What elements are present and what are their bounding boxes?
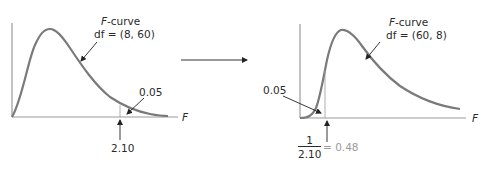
right-tail-pointer-arrow bbox=[283, 96, 321, 113]
left-critical-value: 2.10 bbox=[111, 142, 134, 154]
left-chart bbox=[12, 23, 178, 140]
left-curve-title: F-curve bbox=[101, 15, 140, 27]
left-curve-pointer-arrow bbox=[81, 42, 97, 61]
fraction-numerator: 1 bbox=[298, 134, 321, 146]
right-axis-label: F bbox=[472, 112, 478, 124]
right-reciprocal-result: = 0.48 bbox=[323, 141, 359, 153]
right-curve-pointer-arrow bbox=[366, 42, 380, 59]
left-f-curve bbox=[12, 29, 168, 117]
left-curve-title-rest: -curve bbox=[107, 15, 140, 27]
right-curve-title: F-curve bbox=[389, 16, 428, 28]
right-f-curve bbox=[300, 30, 460, 118]
left-tail-area-label: 0.05 bbox=[139, 86, 162, 98]
fraction-denominator: 2.10 bbox=[298, 146, 321, 160]
right-reciprocal-fraction: 1 2.10 bbox=[298, 134, 321, 160]
right-chart bbox=[283, 24, 466, 142]
right-df-label: df = (60, 8) bbox=[386, 29, 447, 41]
left-df-label: df = (8, 60) bbox=[94, 28, 155, 40]
right-tail-area-label: 0.05 bbox=[263, 84, 286, 96]
right-curve-title-rest: -curve bbox=[395, 16, 428, 28]
left-axis-label: F bbox=[182, 111, 188, 123]
